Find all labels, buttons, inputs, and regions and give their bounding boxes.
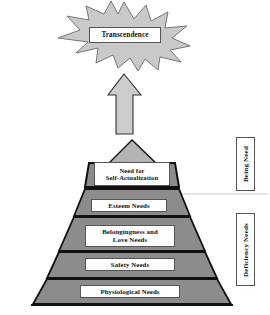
tier-label-belongingness: Belongingness and Love Needs — [85, 225, 175, 247]
self-actualization-line-2: Self-Actualization — [106, 174, 158, 181]
transcendence-label: Transcendence — [89, 27, 161, 43]
belongingness-line-1: Belongingness and — [102, 228, 158, 236]
belongingness-line-2: Love Needs — [102, 236, 158, 244]
tier-label-self-actualization: Need for Self-Actualization — [94, 162, 170, 186]
side-label-deficiency-needs: Deficiency Needs — [236, 213, 255, 286]
tier-label-physiological: Physiological Needs — [80, 285, 180, 298]
upward-arrow-icon — [108, 74, 141, 134]
side-label-deficiency-needs-text: Deficiency Needs — [242, 223, 250, 277]
side-label-being-need: Being Need — [236, 137, 255, 191]
self-actualization-line-1: Need for — [106, 167, 158, 174]
tier-label-esteem: Esteem Needs — [91, 199, 167, 212]
side-label-being-need-text: Being Need — [242, 146, 250, 182]
tier-label-safety: Safety Needs — [85, 258, 175, 271]
diagram-canvas: Transcendence Need for Self-Actualizatio… — [0, 0, 270, 315]
